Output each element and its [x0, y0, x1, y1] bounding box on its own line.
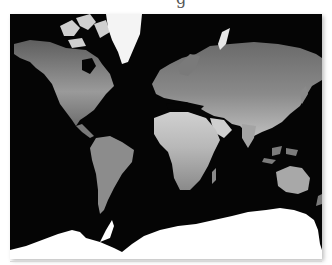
north-america	[14, 40, 114, 126]
australia	[276, 166, 310, 194]
south-america	[90, 136, 134, 214]
greenland	[106, 14, 142, 64]
madagascar	[212, 168, 216, 184]
india	[242, 124, 256, 148]
bottom-rule	[10, 261, 322, 262]
africa	[154, 112, 220, 190]
new-zealand	[316, 194, 322, 206]
central-america	[76, 124, 94, 138]
world-map	[10, 14, 322, 259]
southeast-asia-islands	[262, 146, 298, 164]
antarctic-peninsula	[100, 220, 114, 242]
caption-fragment: g	[176, 0, 186, 7]
antarctica	[10, 208, 322, 259]
arctic-islands	[60, 14, 110, 48]
